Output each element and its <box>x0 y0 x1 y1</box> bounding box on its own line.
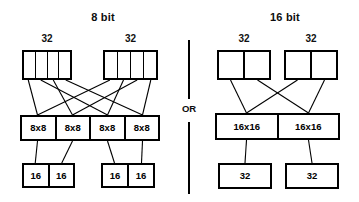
wire-left-a4 <box>66 80 143 115</box>
wire-left-a3 <box>53 80 72 115</box>
left-top-a-cell-0 <box>24 52 35 78</box>
left-multiplier-row: 8x8 8x8 8x8 8x8 <box>20 115 160 141</box>
divider-line-lower <box>188 122 190 194</box>
or-label: OR <box>178 103 200 114</box>
wire-left-a1 <box>28 80 37 115</box>
left-top-register-b <box>103 50 158 80</box>
right-result-group-a: 32 <box>218 163 272 189</box>
wire-left-b1 <box>38 80 110 115</box>
wire-right-c2 <box>309 140 313 163</box>
left-top-register-a-label: 32 <box>22 33 72 44</box>
wire-right-c1 <box>245 140 247 163</box>
wire-left-b4 <box>143 80 151 115</box>
left-mul-cell-1: 8x8 <box>55 117 90 139</box>
right-top-register-a <box>217 50 271 80</box>
left-top-b-cell-1 <box>117 52 130 78</box>
left-top-b-cell-0 <box>105 52 117 78</box>
left-top-a-cell-3 <box>58 52 70 78</box>
wire-left-c1 <box>35 141 37 163</box>
left-mul-cell-0: 8x8 <box>22 117 55 139</box>
wire-right-b1 <box>247 80 298 113</box>
right-mul-cell-1: 16x16 <box>277 115 339 138</box>
left-top-a-cell-2 <box>47 52 59 78</box>
right-mul-cell-0: 16x16 <box>217 115 277 138</box>
left-result-a-cell-1: 16 <box>48 165 74 186</box>
right-result-a-cell-0: 32 <box>220 165 270 187</box>
wire-left-c2 <box>62 141 73 163</box>
left-mul-cell-3: 8x8 <box>124 117 159 139</box>
simd-datapath-diagram: 8 bit 16 bit OR 32 32 8x8 8x8 8x8 8x8 16… <box>0 0 359 202</box>
right-top-a-cell-0 <box>219 52 243 78</box>
right-top-register-b-label: 32 <box>284 33 338 44</box>
right-top-b-cell-0 <box>286 52 310 78</box>
left-top-b-cell-2 <box>130 52 143 78</box>
right-top-register-b <box>284 50 338 80</box>
wire-left-b2 <box>108 80 124 115</box>
left-result-group-a: 16 16 <box>22 163 75 188</box>
right-top-b-cell-1 <box>310 52 336 78</box>
left-mul-cell-2: 8x8 <box>89 117 124 139</box>
left-top-register-a <box>22 50 72 80</box>
left-top-b-cell-3 <box>143 52 156 78</box>
wire-right-a2 <box>258 80 309 113</box>
right-top-register-a-label: 32 <box>217 33 271 44</box>
wire-right-b2 <box>309 80 325 113</box>
wire-left-a2 <box>41 80 108 115</box>
right-top-a-cell-1 <box>243 52 269 78</box>
left-result-b-cell-1: 16 <box>127 165 153 186</box>
divider-line-upper <box>188 40 190 99</box>
wire-left-c4 <box>142 141 143 163</box>
left-result-b-cell-0: 16 <box>103 165 127 186</box>
wire-left-b3 <box>73 80 138 115</box>
right-result-b-cell-0: 32 <box>287 165 337 187</box>
right-multiplier-row: 16x16 16x16 <box>215 113 340 140</box>
right-result-group-b: 32 <box>285 163 339 189</box>
right-section-title: 16 bit <box>242 11 328 23</box>
wire-left-c3 <box>108 141 115 163</box>
wire-right-a1 <box>231 80 247 113</box>
left-section-title: 8 bit <box>63 11 143 23</box>
left-result-a-cell-0: 16 <box>24 165 48 186</box>
left-top-a-cell-1 <box>35 52 47 78</box>
left-result-group-b: 16 16 <box>101 163 155 188</box>
left-top-register-b-label: 32 <box>103 33 158 44</box>
